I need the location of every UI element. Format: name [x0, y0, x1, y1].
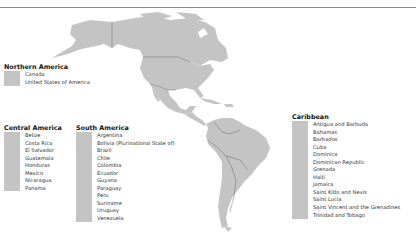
- legend-item: Panama: [25, 185, 62, 193]
- legend-item: Bolivia (Plurinational State of): [97, 140, 175, 148]
- legend-item: Brazil: [97, 147, 175, 155]
- legend-item: Antigua and Barbuda: [313, 121, 400, 129]
- legend-item: Suriname: [97, 200, 175, 208]
- legend-item: Saint Vincent and the Grenadines: [313, 204, 400, 212]
- legend-item: Cuba: [313, 144, 400, 152]
- legend-item: Honduras: [25, 162, 62, 170]
- legend-item: Jamaica: [313, 181, 400, 189]
- legend-northern-america: Northern America Canada United States of…: [4, 63, 90, 86]
- legend-item: Nicaragua: [25, 177, 62, 185]
- legend-item: Argentina: [97, 132, 175, 140]
- legend-item: Uruguay: [97, 207, 175, 215]
- legend-item: Belize: [25, 132, 62, 140]
- legend-title: South America: [76, 124, 175, 132]
- legend-item: Dominica: [313, 151, 400, 159]
- legend-item: El Salvador: [25, 147, 62, 155]
- legend-item: Dominican Republic: [313, 159, 400, 167]
- legend-swatch: [4, 71, 20, 86]
- legend-item: Ecuador: [97, 170, 175, 178]
- legend-swatch: [4, 132, 20, 191]
- legend-item: Chile: [97, 155, 175, 163]
- legend-caribbean: Caribbean Antigua and Barbuda Bahamas Ba…: [292, 113, 400, 219]
- legend-item: Haiti: [313, 174, 400, 182]
- legend-item: Saint Kitts and Nevis: [313, 189, 400, 197]
- legend-item: Canada: [25, 71, 90, 79]
- legend-item: Trinidad and Tobago: [313, 212, 400, 220]
- legend-item: Peru: [97, 192, 175, 200]
- legend-swatch: [292, 121, 308, 219]
- legend-item: Grenada: [313, 166, 400, 174]
- legend-item: Saint Lucia: [313, 196, 400, 204]
- legend-item: Venezuela: [97, 215, 175, 223]
- legend-item: Bahamas: [313, 129, 400, 137]
- legend-central-america: Central America Belize Costa Rica El Sal…: [4, 124, 62, 192]
- legend-south-america: South America Argentina Bolivia (Plurina…: [76, 124, 175, 223]
- legend-swatch: [76, 132, 92, 222]
- legend-title: Northern America: [4, 63, 90, 71]
- legend-item: Guyana: [97, 177, 175, 185]
- legend-item: Costa Rica: [25, 140, 62, 148]
- legend-title: Central America: [4, 124, 62, 132]
- legend-item: Paraguay: [97, 185, 175, 193]
- legend-item: Colombia: [97, 162, 175, 170]
- legend-item: Mexico: [25, 170, 62, 178]
- legend-item: United States of America: [25, 79, 90, 87]
- legend-item: Guatemala: [25, 155, 62, 163]
- legend-title: Caribbean: [292, 113, 400, 121]
- legend-item: Barbados: [313, 136, 400, 144]
